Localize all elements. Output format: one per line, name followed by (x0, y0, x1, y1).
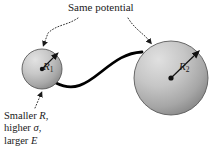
large-sphere-radius-symbol: R (179, 60, 186, 72)
leader-left (44, 18, 78, 44)
large-sphere-radius-label: R2 (179, 60, 189, 74)
caption-block: Smaller R, higher σ, larger E (4, 110, 48, 147)
caption-line-higher-sigma: higher σ, (4, 122, 48, 134)
leader-bottom (35, 94, 41, 108)
physics-figure: Same potential R1 R2 Smaller R, higher σ… (0, 0, 213, 150)
caption-line-larger-e: larger E (4, 135, 48, 147)
small-sphere-radius-symbol: R (43, 60, 50, 72)
large-sphere-center-dot (168, 75, 173, 80)
small-sphere-radius-subscript: 1 (50, 65, 54, 74)
connecting-wire (56, 52, 142, 87)
small-sphere-radius-label: R1 (43, 60, 53, 74)
same-potential-label: Same potential (68, 1, 134, 14)
leader-right (128, 18, 150, 42)
large-sphere-radius-subscript: 2 (186, 65, 190, 74)
caption-line-smaller-r: Smaller R, (4, 110, 48, 122)
